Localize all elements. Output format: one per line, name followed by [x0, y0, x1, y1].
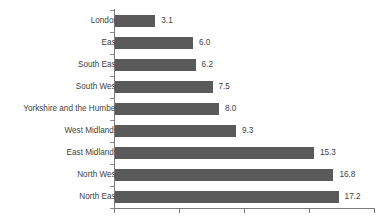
bar-row: North West16.8 — [0, 164, 384, 186]
category-label: London — [91, 10, 118, 32]
bar-row: West Midlands9.3 — [0, 120, 384, 142]
bar-value-label: 7.5 — [219, 76, 230, 98]
x-axis-tick — [179, 208, 180, 213]
bar-value-label: 17.2 — [345, 186, 361, 208]
bar-chart: London3.1East6.0South East6.2South West7… — [0, 0, 384, 222]
bar-row: East6.0 — [0, 32, 384, 54]
bar-row: Yorkshire and the Humber8.0 — [0, 98, 384, 120]
bar-value-label: 9.3 — [242, 120, 253, 142]
bar-value-label: 3.1 — [161, 10, 172, 32]
bar-row: London3.1 — [0, 10, 384, 32]
x-axis-tick — [374, 208, 375, 213]
category-label: North East — [79, 186, 118, 208]
category-label: West Midlands — [64, 120, 118, 142]
bar-row: South East6.2 — [0, 54, 384, 76]
category-label: East Midlands — [67, 142, 118, 164]
bar — [115, 81, 213, 93]
bar-value-label: 6.2 — [202, 54, 213, 76]
bar-value-label: 16.8 — [339, 164, 355, 186]
bar — [115, 169, 333, 181]
category-label: North West — [77, 164, 118, 186]
category-label: South East — [78, 54, 118, 76]
bar — [115, 147, 314, 159]
x-axis-tick — [244, 208, 245, 213]
y-axis-tick — [110, 208, 114, 209]
plot-area: London3.1East6.0South East6.2South West7… — [0, 0, 384, 222]
bar-value-label: 6.0 — [199, 32, 210, 54]
bar — [115, 125, 236, 137]
bar — [115, 59, 196, 71]
category-label: Yorkshire and the Humber — [23, 98, 118, 120]
bar-row: East Midlands15.3 — [0, 142, 384, 164]
bar — [115, 103, 219, 115]
bar — [115, 15, 155, 27]
bar — [115, 191, 339, 203]
category-label: South West — [76, 76, 118, 98]
bar — [115, 37, 193, 49]
bar-value-label: 15.3 — [320, 142, 336, 164]
bar-row: South West7.5 — [0, 76, 384, 98]
x-axis-tick — [114, 208, 115, 213]
bar-value-label: 8.0 — [225, 98, 236, 120]
x-axis-tick — [309, 208, 310, 213]
bar-row: North East17.2 — [0, 186, 384, 208]
